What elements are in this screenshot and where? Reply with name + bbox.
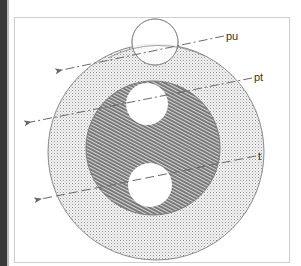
trajectory-diagram: pu pt t	[0, 0, 301, 266]
bottom-circle	[128, 163, 172, 207]
label-pt: pt	[254, 71, 263, 83]
middle-circle	[126, 83, 168, 125]
label-pu: pu	[226, 30, 238, 42]
label-t: t	[258, 150, 261, 162]
